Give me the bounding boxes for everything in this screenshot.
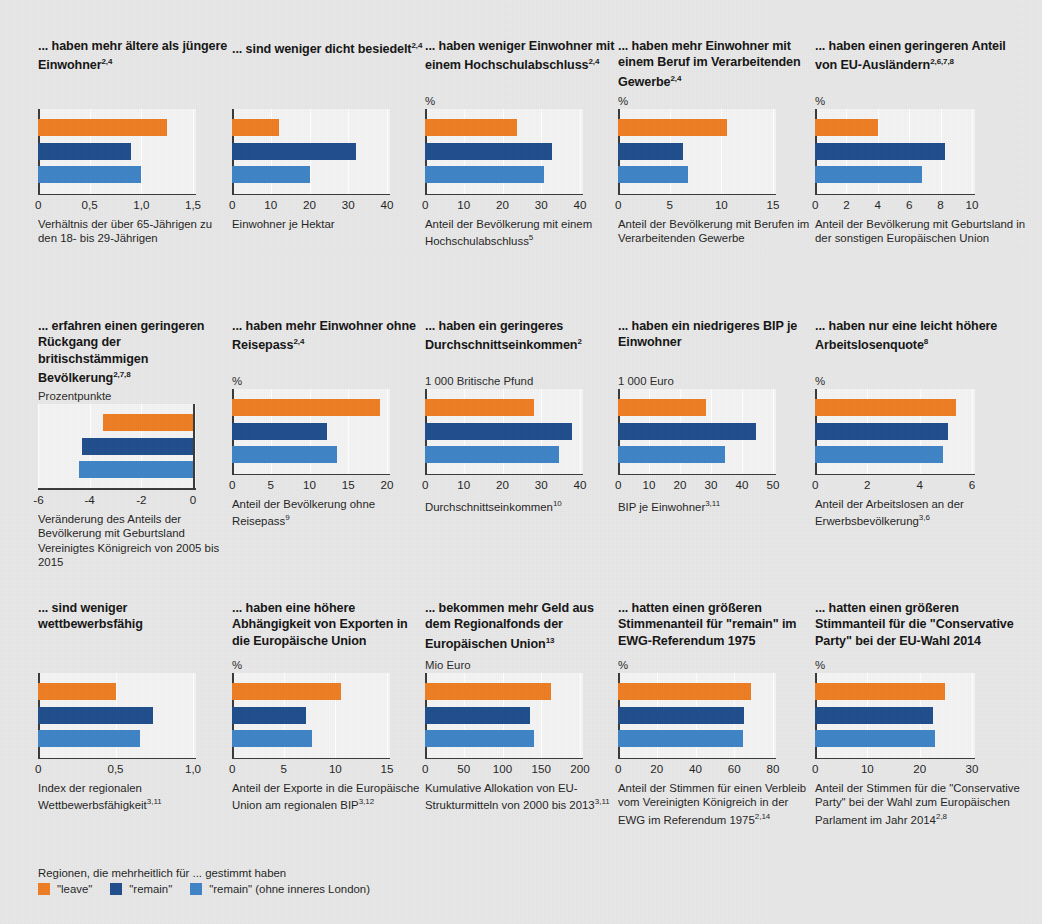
- x-tick-label: 30: [535, 478, 548, 491]
- bar-remain-excl-london: [38, 730, 140, 747]
- axis-caption: Verhältnis der über 65-Jährigen zu den 1…: [38, 217, 234, 246]
- x-axis-ticks: 05101520: [232, 478, 428, 495]
- x-tick-label: 200: [570, 762, 589, 775]
- gridline: [580, 673, 581, 759]
- panel-title-footnote: 2,4: [101, 57, 112, 66]
- axis-caption-footnote: 3,12: [359, 797, 375, 806]
- axis-caption-footnote: 2,8: [936, 812, 947, 821]
- axis-unit-label: %: [425, 94, 621, 109]
- axis-unit-label: %: [232, 658, 428, 673]
- x-tick-label: 2: [864, 478, 870, 491]
- plot-area: [38, 404, 234, 490]
- x-tick-label: 150: [532, 762, 551, 775]
- axis-caption-footnote: 2,14: [755, 812, 771, 821]
- bar-remain-excl-london: [232, 446, 337, 463]
- x-tick-label: 100: [493, 762, 512, 775]
- gridline: [773, 389, 774, 475]
- x-tick-label: 1,0: [185, 762, 201, 775]
- bar-leave: [38, 683, 116, 700]
- gridline: [387, 673, 388, 759]
- x-axis-line: [38, 194, 196, 195]
- x-tick-label: 50: [457, 762, 470, 775]
- axis-unit-label: %: [618, 658, 814, 673]
- panel-chart-average-income: ... haben ein geringeres Durchschnittsei…: [425, 318, 621, 514]
- bar-remain: [82, 438, 193, 455]
- axis-caption: Durchschnittseinkommen10: [425, 497, 621, 514]
- panel-title-footnote: 2,4: [671, 74, 682, 83]
- axis-caption-footnote: 10: [553, 499, 562, 508]
- bar-remain-excl-london: [815, 166, 922, 183]
- axis-caption: Veränderung des Anteils der Bevölkerung …: [38, 512, 234, 570]
- axis-unit-label: 1 000 Britische Pfund: [425, 374, 621, 389]
- gridline: [972, 109, 973, 195]
- panel-title: ... haben nur eine leicht höhere Arbeits…: [815, 318, 1029, 372]
- axis-caption: Anteil der Stimmen für die "Conservative…: [815, 781, 1029, 827]
- panel-chart-higher-education: ... haben weniger Einwohner mit einem Ho…: [425, 38, 621, 249]
- axis-unit-label: %: [618, 94, 814, 109]
- axis-caption-footnote: 5: [529, 233, 533, 242]
- axis-caption-footnote: 3,6: [919, 513, 930, 522]
- bar-leave: [232, 399, 380, 416]
- x-axis-line: [618, 194, 776, 195]
- x-tick-label: 0: [229, 478, 235, 491]
- gridline: [387, 389, 388, 475]
- chart-grid: ... haben mehr ältere als jüngere Einwoh…: [0, 0, 1042, 924]
- bar-remain-excl-london: [232, 730, 312, 747]
- panel-title-footnote: 2: [577, 337, 581, 346]
- x-tick-label: 10: [966, 198, 979, 211]
- x-tick-label: 5: [268, 478, 274, 491]
- x-axis-ticks: 00,51,01,5: [38, 198, 234, 215]
- plot-area: [618, 673, 814, 759]
- panel-title-footnote: 2,4: [293, 337, 304, 346]
- bar-remain: [815, 707, 933, 724]
- x-axis-ticks: 0102030: [815, 762, 1029, 779]
- axis-caption: Anteil der Exporte in die Europäische Un…: [232, 781, 428, 813]
- x-tick-label: 0: [615, 198, 621, 211]
- x-tick-label: -2: [136, 493, 146, 506]
- panel-title: ... sind weniger wettbewerbsfähig: [38, 600, 234, 656]
- gridline: [193, 109, 194, 195]
- bar-leave: [103, 414, 193, 431]
- bar-leave: [815, 399, 956, 416]
- axis-unit-label: Prozentpunkte: [38, 389, 234, 404]
- x-tick-label: 0: [35, 762, 41, 775]
- panel-title: ... haben einen geringeren Anteil von EU…: [815, 38, 1029, 92]
- axis-caption: Anteil der Bevölkerung ohne Reisepass9: [232, 497, 428, 529]
- panel-title-footnote: 13: [546, 636, 555, 645]
- x-tick-label: 20: [381, 478, 394, 491]
- legend-title: Regionen, die mehrheitlich für ... gesti…: [38, 866, 658, 880]
- panel-chart-density: ... sind weniger dicht besiedelt2,4-0102…: [232, 38, 428, 231]
- bar-leave: [618, 399, 706, 416]
- bar-leave: [815, 683, 945, 700]
- panel-title: ... sind weniger dicht besiedelt2,4: [232, 38, 428, 92]
- x-tick-label: 15: [381, 762, 394, 775]
- axis-caption: Anteil der Arbeitslosen an der Erwerbsbe…: [815, 497, 1029, 529]
- gridline: [387, 109, 388, 195]
- x-tick-label: 0: [615, 478, 621, 491]
- gridline: [38, 404, 39, 490]
- x-tick-label: 1,0: [133, 198, 149, 211]
- panel-title: ... haben ein geringeres Durchschnittsei…: [425, 318, 621, 372]
- x-tick-label: 40: [574, 198, 587, 211]
- axis-unit-label: %: [815, 658, 1029, 673]
- bar-leave: [425, 399, 534, 416]
- x-axis-ticks: 020406080: [618, 762, 814, 779]
- x-tick-label: 20: [303, 198, 316, 211]
- legend-item-2: "remain" (ohne inneres London): [190, 883, 370, 895]
- x-axis-line: [232, 758, 390, 759]
- legend-label: "remain" (ohne inneres London): [209, 883, 370, 895]
- axis-caption: BIP je Einwohner3,11: [618, 497, 814, 514]
- x-axis-line: [232, 194, 390, 195]
- x-tick-label: 6: [969, 478, 975, 491]
- bar-remain-excl-london: [79, 461, 193, 478]
- x-tick-label: 8: [937, 198, 943, 211]
- x-tick-label: 10: [861, 762, 874, 775]
- panel-chart-regional-funds: ... bekommen mehr Geld aus dem Regionalf…: [425, 600, 621, 813]
- x-tick-label: 40: [381, 198, 394, 211]
- x-tick-label: 20: [496, 478, 509, 491]
- x-tick-label: 5: [666, 198, 672, 211]
- x-axis-ticks: 051015: [618, 198, 814, 215]
- panel-title-footnote: 8: [924, 337, 928, 346]
- panel-chart-competitiveness: ... sind weniger wettbewerbsfähig-00,51,…: [38, 600, 234, 813]
- panel-chart-ewg-referendum-1975: ... hatten einen größeren Stimmenanteil …: [618, 600, 814, 827]
